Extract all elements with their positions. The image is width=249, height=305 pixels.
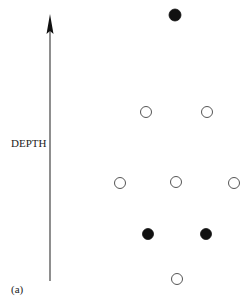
depth-axis xyxy=(47,14,54,281)
filled-node-icon xyxy=(201,229,212,240)
filled-node-icon xyxy=(169,9,181,21)
depth-diagram xyxy=(0,0,249,305)
filled-node-icon xyxy=(143,229,154,240)
open-node-icon xyxy=(202,107,213,118)
open-node-icon xyxy=(115,178,126,189)
open-node-icon xyxy=(172,274,183,285)
depth-axis-label: DEPTH xyxy=(11,138,46,149)
open-node-icon xyxy=(141,107,152,118)
open-node-icon xyxy=(171,177,182,188)
node-group xyxy=(115,9,240,285)
arrow-up-icon xyxy=(47,14,54,34)
panel-label: (a) xyxy=(11,284,23,295)
open-node-icon xyxy=(229,178,240,189)
